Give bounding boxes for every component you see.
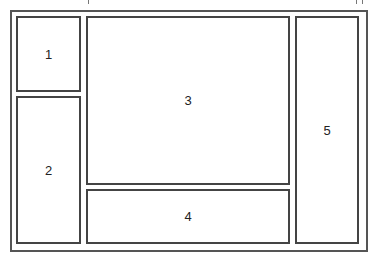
region-2: 2 (16, 96, 81, 244)
cropped-caption-fragment (356, 0, 357, 4)
region-1-label: 1 (45, 47, 52, 62)
region-1: 1 (16, 16, 81, 92)
region-5-label: 5 (323, 123, 330, 138)
region-4-label: 4 (184, 209, 191, 224)
region-3: 3 (86, 16, 290, 185)
region-2-label: 2 (45, 163, 52, 178)
region-4: 4 (86, 189, 290, 244)
region-5: 5 (295, 16, 359, 244)
cropped-caption-fragment (88, 0, 89, 4)
region-3-label: 3 (184, 93, 191, 108)
cropped-caption-fragment (362, 0, 363, 4)
